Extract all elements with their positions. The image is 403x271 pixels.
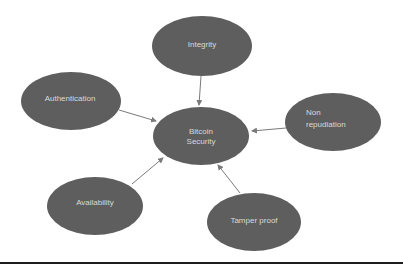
node-label: Integrity xyxy=(188,40,216,49)
edge-non-repudiation-to-center xyxy=(252,128,286,131)
node-tamper-proof: Tamper proof xyxy=(207,193,301,251)
node-label-line-1: Bitcoin xyxy=(189,127,213,136)
node-non-repudiation: Non repudiation xyxy=(285,93,381,151)
edge-authentication-to-center xyxy=(119,110,156,121)
node-label-line-1: Non xyxy=(306,108,321,117)
edge-tamper-proof-to-center xyxy=(218,165,240,193)
node-integrity: Integrity xyxy=(152,16,252,76)
horizontal-rule xyxy=(0,262,403,264)
node-label: Tamper proof xyxy=(230,216,278,225)
node-shape xyxy=(153,107,249,165)
node-label: Authentication xyxy=(45,94,96,103)
node-bitcoin-security: Bitcoin Security xyxy=(153,107,249,165)
node-authentication: Authentication xyxy=(21,72,121,130)
bitcoin-security-diagram: Bitcoin Security Integrity Authenticatio… xyxy=(0,0,403,271)
edge-availability-to-center xyxy=(132,158,163,184)
node-availability: Availability xyxy=(47,177,143,235)
node-label-line-2: repudiation xyxy=(306,120,346,129)
node-label-line-2: Security xyxy=(187,137,216,146)
edge-integrity-to-center xyxy=(199,76,201,105)
node-label: Availability xyxy=(76,198,114,207)
